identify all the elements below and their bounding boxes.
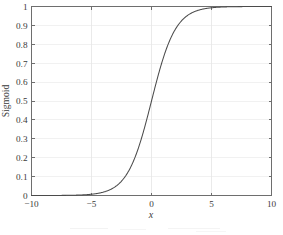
x-tick-label: −5 bbox=[87, 199, 97, 209]
y-tick-label: 0.8 bbox=[16, 40, 28, 50]
x-tick-label: 5 bbox=[209, 199, 214, 209]
y-tick-label: 0.3 bbox=[16, 134, 28, 144]
y-tick-label: 0.4 bbox=[16, 115, 28, 125]
y-tick-label: 0.6 bbox=[16, 77, 28, 87]
y-tick-label: 0 bbox=[23, 191, 28, 201]
x-axis-title: x bbox=[148, 209, 154, 220]
x-tick-label: 10 bbox=[267, 199, 277, 209]
y-tick-label: 0.7 bbox=[16, 59, 28, 69]
y-tick-label: 0.1 bbox=[16, 172, 28, 182]
y-axis-title: Sigmoid bbox=[0, 85, 11, 118]
x-tick-label: 0 bbox=[149, 199, 154, 209]
y-tick-label: 0.2 bbox=[16, 153, 28, 163]
y-tick-label: 1 bbox=[23, 2, 28, 12]
y-tick-label: 0.9 bbox=[16, 21, 28, 31]
sigmoid-chart-canvas: −10−50510 00.10.20.30.40.50.60.70.80.91 … bbox=[0, 0, 283, 235]
figure-background bbox=[0, 0, 283, 235]
y-tick-label: 0.5 bbox=[16, 96, 28, 106]
sigmoid-figure: −10−50510 00.10.20.30.40.50.60.70.80.91 … bbox=[0, 0, 283, 235]
